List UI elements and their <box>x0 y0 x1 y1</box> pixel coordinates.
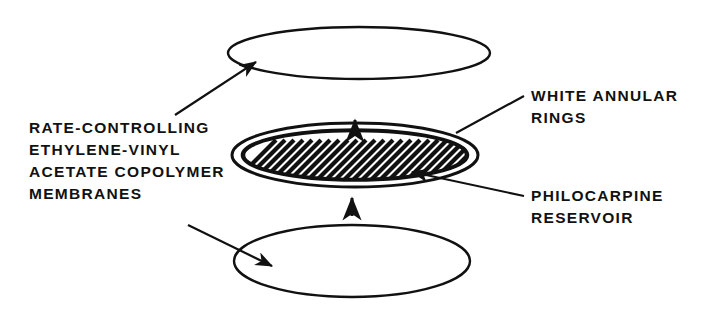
philocarpine-reservoir-label: PHILOCARPINE RESERVOIR <box>531 185 664 229</box>
leader-to-bottom-membrane <box>188 225 272 266</box>
leader-to-annular-rings <box>456 96 524 133</box>
top-membrane <box>228 27 490 79</box>
diagram-page: RATE-CONTROLLING ETHYLENE-VINYL ACETATE … <box>0 0 716 309</box>
rate-controlling-membranes-label: RATE-CONTROLLING ETHYLENE-VINYL ACETATE … <box>29 117 225 205</box>
bottom-membrane <box>234 225 470 297</box>
leader-to-reservoir <box>412 172 524 196</box>
white-annular-rings-label: WHITE ANNULAR RINGS <box>531 85 678 129</box>
leader-to-top-membrane <box>175 62 256 115</box>
